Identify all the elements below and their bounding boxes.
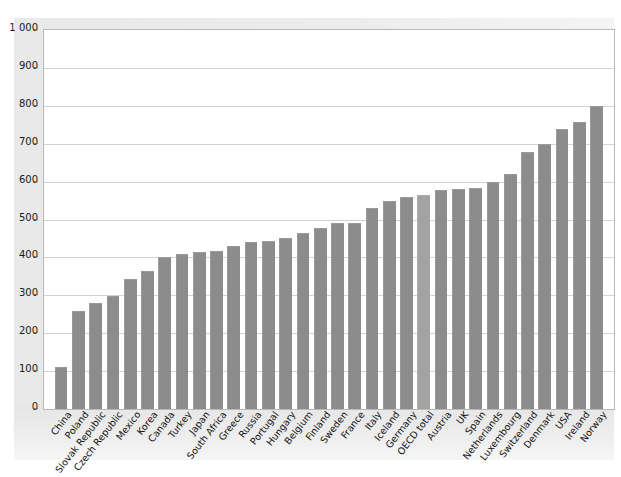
bar: [227, 246, 240, 409]
y-tick-label: 0: [0, 401, 38, 412]
bar: [521, 152, 534, 409]
y-tick-label: 100: [0, 363, 38, 374]
bar: [417, 195, 430, 409]
bar: [176, 254, 189, 409]
y-tick-label: 500: [0, 212, 38, 223]
bar: [141, 271, 154, 409]
bar: [297, 233, 310, 409]
y-tick-mark: [34, 143, 38, 144]
y-tick-label: 800: [0, 98, 38, 109]
bar: [193, 252, 206, 409]
bar: [400, 197, 413, 409]
bar: [107, 296, 120, 409]
bar: [435, 190, 448, 409]
bar: [452, 189, 465, 409]
bar: [487, 182, 500, 409]
y-axis-ticks: 1 0009008007006005004003002001000: [0, 29, 38, 408]
y-tick-mark: [34, 332, 38, 333]
bar: [504, 174, 517, 409]
bar: [538, 144, 551, 409]
bar: [383, 201, 396, 409]
bar: [314, 228, 327, 409]
y-tick-label: 400: [0, 249, 38, 260]
y-tick-mark: [34, 181, 38, 182]
bar: [210, 251, 223, 409]
y-tick-label: 900: [0, 60, 38, 71]
y-tick-label: 1 000: [0, 22, 38, 33]
bar: [366, 208, 379, 409]
y-tick-mark: [34, 370, 38, 371]
bar: [72, 311, 85, 409]
bar: [556, 129, 569, 409]
y-tick-mark: [34, 67, 38, 68]
y-tick-mark: [34, 219, 38, 220]
bar: [89, 303, 102, 409]
bar: [262, 241, 275, 409]
x-axis-ticks: ChinaPolandSlovak RepublicCzech Republic…: [43, 409, 621, 477]
y-tick-label: 600: [0, 174, 38, 185]
chart-figure: Kg per capita 1 000900800700600500400300…: [0, 0, 621, 477]
bar: [590, 106, 603, 409]
bar: [158, 257, 171, 409]
bar: [279, 238, 292, 409]
y-tick-mark: [34, 29, 38, 30]
bar: [469, 188, 482, 409]
y-tick-label: 700: [0, 136, 38, 147]
bar: [331, 223, 344, 409]
gridline: [44, 144, 614, 145]
y-tick-mark: [34, 408, 38, 409]
y-tick-mark: [34, 105, 38, 106]
gridline: [44, 68, 614, 69]
y-tick-mark: [34, 256, 38, 257]
bar: [245, 242, 258, 409]
y-tick-label: 200: [0, 325, 38, 336]
y-tick-label: 300: [0, 287, 38, 298]
plot-area: [43, 29, 615, 410]
bar: [124, 279, 137, 409]
gridline: [44, 106, 614, 107]
bar: [573, 122, 586, 409]
bar: [348, 223, 361, 409]
bar: [55, 367, 68, 409]
y-tick-mark: [34, 294, 38, 295]
